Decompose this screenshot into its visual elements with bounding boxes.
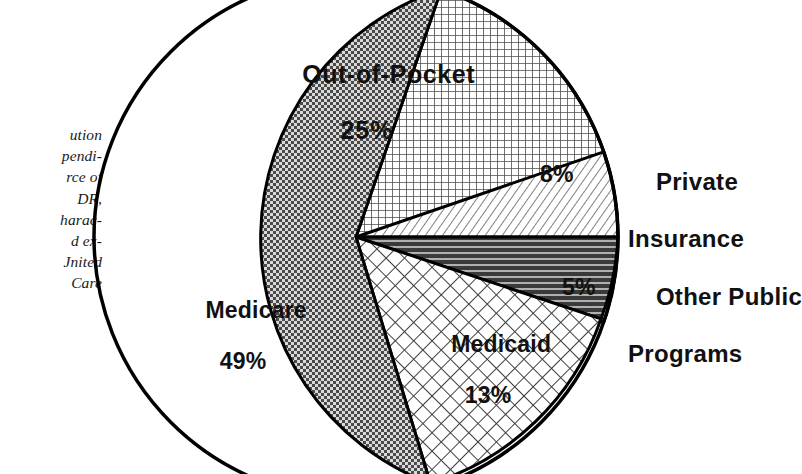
slice-value-medicaid: 13% [418,383,558,409]
slice-label-private-insurance-line2: Insurance [628,225,744,253]
pie-chart-figure: ution pendi- rce of DR, harac- d ex- Jni… [0,0,802,474]
slice-label-out-of-pocket: Out-of-Pocket 25% [272,32,462,200]
slice-label-other-public-line2: Programs [628,340,802,368]
slice-label-medicare: Medicare 49% [168,272,318,427]
slice-label-medicaid-name: Medicaid [451,331,551,357]
slice-value-other-public-programs: 5% [562,275,596,301]
slice-value-medicare: 49% [168,349,318,375]
slice-label-out-of-pocket-name: Out-of-Pocket [302,60,475,88]
slice-label-other-public-line1: Other Public [656,283,802,310]
slice-value-out-of-pocket: 25% [272,116,462,144]
slice-label-other-public-programs: Other Public Programs [628,255,802,425]
slice-label-medicaid: Medicaid 13% [418,306,558,461]
slice-label-private-insurance-line1: Private [656,168,738,195]
slice-label-medicare-name: Medicare [206,297,307,323]
slice-value-private-insurance: 8% [540,162,574,188]
